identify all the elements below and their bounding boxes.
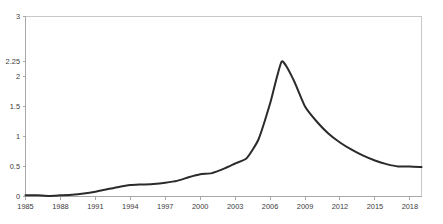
y-tick-label: 0 [16,192,20,201]
x-tick-label: 2018 [402,202,418,211]
x-tick-label: 1985 [17,202,33,211]
x-tick-label: 1988 [52,202,68,211]
x-tick-label: 1991 [87,202,103,211]
y-tick-label: 0.5 [10,162,20,171]
x-tick-label: 2003 [227,202,243,211]
series-line [26,61,422,196]
chart-canvas: 00.511.522.253 1985198819911994199720002… [0,0,443,224]
x-tick-label: 1997 [157,202,173,211]
y-tick-label: 1 [16,132,20,141]
x-tick-label: 2009 [297,202,313,211]
y-axis-tick-labels: 00.511.522.253 [6,12,20,201]
y-tick-label: 2.25 [6,57,20,66]
x-tick-label: 2000 [192,202,208,211]
x-tick-label: 2006 [262,202,278,211]
data-series-group [26,61,422,196]
line-chart: 00.511.522.253 1985198819911994199720002… [0,0,443,224]
x-axis-tick-labels: 1985198819911994199720002003200620092012… [17,202,418,211]
y-tick-label: 3 [16,12,20,21]
x-axis-ticks [26,197,422,200]
x-tick-label: 2015 [367,202,383,211]
y-tick-label: 2 [16,72,20,81]
x-tick-label: 1994 [122,202,138,211]
y-axis-ticks [23,17,26,197]
y-tick-label: 1.5 [10,102,20,111]
x-tick-label: 2012 [332,202,348,211]
